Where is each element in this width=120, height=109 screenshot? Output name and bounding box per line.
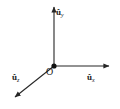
z-axis-label: ûz	[12, 73, 19, 83]
coordinate-axes-diagram: O ûy ûx ûz	[0, 0, 120, 109]
x-axis-label: ûx	[87, 73, 95, 83]
origin-label: O	[46, 67, 53, 77]
y-axis-subscript: y	[61, 12, 64, 18]
x-axis-subscript: x	[92, 77, 95, 83]
z-axis-subscript: z	[17, 77, 19, 83]
y-axis-label: ûy	[56, 8, 64, 18]
